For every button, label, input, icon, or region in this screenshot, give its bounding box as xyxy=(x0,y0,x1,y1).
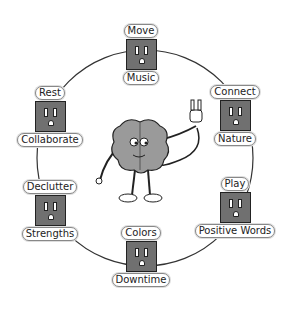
node-lower-left: Declutter Strengths xyxy=(14,180,86,241)
outlet-icon xyxy=(220,192,251,223)
node-lower-right: Play Positive Words xyxy=(190,177,280,238)
label-colors: Colors xyxy=(121,226,160,240)
label-collaborate: Collaborate xyxy=(17,133,83,147)
label-move: Move xyxy=(124,24,159,38)
label-nature: Nature xyxy=(214,132,256,146)
outlet-icon xyxy=(220,100,251,131)
outlet-icon xyxy=(126,241,157,272)
outlet-icon xyxy=(35,195,66,226)
node-upper-left: Rest Collaborate xyxy=(14,86,86,147)
node-top: Move Music xyxy=(118,24,164,85)
label-connect: Connect xyxy=(210,85,259,99)
label-strengths: Strengths xyxy=(22,227,78,241)
node-upper-right: Connect Nature xyxy=(206,85,264,146)
label-play: Play xyxy=(221,177,250,191)
brain-character-icon xyxy=(96,100,202,202)
label-declutter: Declutter xyxy=(23,180,78,194)
label-positive-words: Positive Words xyxy=(195,224,276,238)
label-downtime: Downtime xyxy=(112,273,171,287)
label-music: Music xyxy=(123,71,159,85)
node-bottom: Colors Downtime xyxy=(110,226,172,287)
label-rest: Rest xyxy=(35,86,65,100)
outlet-icon xyxy=(126,39,157,70)
outlet-icon xyxy=(35,101,66,132)
